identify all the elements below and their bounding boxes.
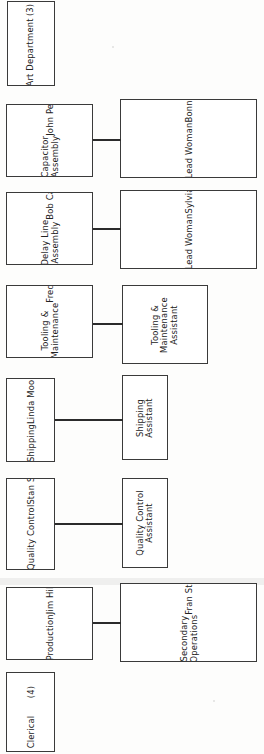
org-node-text-shipping-assistant: ShippingAssistant bbox=[122, 375, 168, 460]
org-node-text-segment: Fran Stills bbox=[184, 583, 193, 614]
org-node-text-delay-line-assembly: Delay LineAssemblyBob Carnes bbox=[6, 192, 93, 265]
org-node-text-line: Tooling & bbox=[40, 310, 49, 350]
org-node-text-segment: Art Department bbox=[26, 18, 35, 86]
org-node-text-segment: ShippingAssistant bbox=[136, 375, 155, 460]
org-node-text-production: ProductionJim HillTom Wacker bbox=[6, 587, 93, 660]
org-node-delay-line-lead-woman: Lead WomanSylvia FritzAssemblers(15) bbox=[120, 190, 257, 269]
org-node-text-quality-control: Quality ControlStan Sanders bbox=[6, 478, 55, 570]
org-connector-line bbox=[55, 419, 123, 421]
org-node-text-line: Operations bbox=[189, 614, 198, 662]
org-node-text-segment: SecondaryOperations bbox=[179, 614, 198, 662]
org-node-text-segment: Production bbox=[45, 614, 54, 660]
org-node-text-line: Lead Woman bbox=[184, 213, 193, 269]
org-node-text-segment: Tooling &MaintenanceAssistant bbox=[151, 285, 179, 364]
org-node-text-segment: Delay LineAssembly bbox=[40, 219, 59, 265]
org-connector-line bbox=[93, 228, 121, 230]
org-node-text-segment: CapacitorAssembly bbox=[40, 135, 59, 177]
org-node-text-line: Lead Woman bbox=[184, 122, 193, 178]
org-node-text-tooling-maintenance-assistant: Tooling &MaintenanceAssistant bbox=[122, 285, 208, 364]
org-connector-line bbox=[93, 622, 121, 624]
org-node-production: ProductionJim HillTom Wacker bbox=[6, 587, 93, 660]
org-node-text-line: Jim Hill bbox=[45, 587, 54, 614]
org-node-text-line: Assistant bbox=[170, 305, 179, 345]
org-node-capacitor-lead-woman: Lead WomanBonnie ParksAssemblers(15) bbox=[120, 99, 257, 178]
org-node-text-segment: Stan Sanders bbox=[26, 478, 35, 505]
org-node-text-line: Assembly bbox=[50, 221, 59, 263]
org-node-shipping-assistant: ShippingAssistant bbox=[122, 375, 168, 460]
org-node-text-line: John Peak bbox=[45, 104, 54, 135]
org-node-text-secondary-operations: SecondaryOperationsFran StillsOperators(… bbox=[120, 583, 257, 662]
org-node-text-segment: Quality ControlAssistant bbox=[136, 478, 155, 568]
org-node-text-capacitor-lead-woman: Lead WomanBonnie ParksAssemblers(15) bbox=[120, 99, 257, 178]
org-node-text-line: Linda Moore bbox=[26, 378, 35, 424]
scan-artifact-speck bbox=[112, 46, 114, 48]
org-node-text-line: Production bbox=[45, 614, 54, 660]
org-node-text-segment: Linda Moore bbox=[26, 378, 35, 424]
org-node-text-line: Bob Carnes bbox=[45, 192, 54, 219]
org-node-text-segment: Quality Control bbox=[26, 505, 35, 570]
org-node-tooling-maintenance: Tooling &MaintenanceFred Levy bbox=[6, 285, 93, 358]
org-node-text-line: Delay Line bbox=[40, 219, 49, 265]
org-node-text-delay-line-lead-woman: Lead WomanSylvia FritzAssemblers(15) bbox=[120, 190, 257, 269]
org-node-text-line: Clerical bbox=[26, 716, 35, 749]
org-node-text-segment: Clerical bbox=[26, 712, 35, 752]
org-node-text-line: Stan Sanders bbox=[26, 478, 35, 505]
org-node-text-line: Assistant bbox=[145, 503, 154, 543]
org-node-text-segment: (4) bbox=[26, 672, 35, 712]
org-node-text-clerical: Clerical(4) bbox=[6, 672, 55, 752]
org-node-text-segment: Jim Hill bbox=[45, 587, 54, 614]
org-node-text-line: Art Department bbox=[26, 18, 35, 86]
scan-artifact-speck bbox=[213, 700, 215, 702]
org-node-text-capacitor-assembly: CapacitorAssemblyJohn Peak bbox=[6, 104, 93, 177]
org-node-text-segment: John Peak bbox=[45, 104, 54, 135]
org-node-clerical: Clerical(4) bbox=[6, 672, 55, 752]
org-node-text-line: Maintenance bbox=[50, 302, 59, 358]
org-node-text-tooling-maintenance: Tooling &MaintenanceFred Levy bbox=[6, 285, 93, 358]
org-node-text-segment: Tooling &Maintenance bbox=[40, 302, 59, 358]
org-connector-line bbox=[55, 523, 123, 525]
org-node-text-line: Capacitor bbox=[40, 135, 49, 177]
org-node-delay-line-assembly: Delay LineAssemblyBob Carnes bbox=[6, 192, 93, 265]
org-node-text-line: Assembly bbox=[50, 135, 59, 177]
org-node-text-quality-control-assistant: Quality ControlAssistant bbox=[122, 478, 168, 568]
org-node-text-shipping: ShippingLinda Moore bbox=[6, 378, 55, 462]
org-node-text-art-department: Art Department(3) bbox=[7, 1, 55, 86]
org-node-text-segment: (3) bbox=[26, 1, 35, 18]
org-node-secondary-operations: SecondaryOperationsFran StillsOperators(… bbox=[120, 583, 257, 662]
org-node-text-segment: Shipping bbox=[26, 424, 35, 462]
org-node-text-line: (3) bbox=[26, 3, 35, 15]
org-node-quality-control-assistant: Quality ControlAssistant bbox=[122, 478, 168, 568]
org-node-tooling-maintenance-assistant: Tooling &MaintenanceAssistant bbox=[122, 285, 208, 364]
org-node-text-line: Secondary bbox=[179, 615, 188, 661]
org-node-text-line: Fran Stills bbox=[184, 583, 193, 614]
org-node-capacitor-assembly: CapacitorAssemblyJohn Peak bbox=[6, 104, 93, 177]
org-node-text-line: Sylvia Fritz bbox=[184, 190, 193, 213]
org-node-text-line: Assistant bbox=[145, 398, 154, 438]
org-node-text-segment: Fred Levy bbox=[45, 285, 54, 302]
org-node-text-segment: Bonnie Parks bbox=[184, 99, 193, 122]
org-node-shipping: ShippingLinda Moore bbox=[6, 378, 55, 462]
org-connector-line bbox=[93, 323, 123, 325]
org-node-text-segment: Lead Woman bbox=[184, 122, 193, 178]
org-node-quality-control: Quality ControlStan Sanders bbox=[6, 478, 55, 570]
org-node-text-line: Shipping bbox=[26, 424, 35, 462]
org-node-text-segment: Sylvia Fritz bbox=[184, 190, 193, 213]
org-connector-line bbox=[93, 139, 121, 141]
org-node-text-line: Fred Levy bbox=[45, 285, 54, 302]
org-node-text-segment: Bob Carnes bbox=[45, 192, 54, 219]
org-node-text-line: Quality Control bbox=[26, 505, 35, 570]
org-node-text-segment: Lead Woman bbox=[184, 213, 193, 269]
org-node-text-line: Bonnie Parks bbox=[184, 99, 193, 122]
org-node-text-line: (4) bbox=[26, 686, 35, 698]
organization-chart: Art Department(3)CapacitorAssemblyJohn P… bbox=[0, 0, 264, 754]
org-node-art-department: Art Department(3) bbox=[7, 1, 55, 86]
